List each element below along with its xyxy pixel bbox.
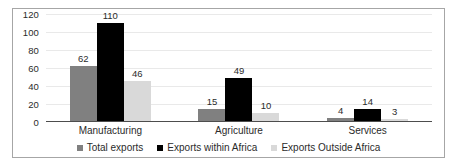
bar-value-label: 62: [78, 53, 89, 64]
bar-slot: 62: [70, 14, 97, 122]
y-axis-tick-label: 60: [28, 63, 39, 74]
category-axis: ManufacturingAgricultureServices: [46, 125, 432, 141]
bar-value-label: 3: [392, 106, 397, 117]
legend-label: Exports within Africa: [167, 142, 257, 153]
bar-group: 154910: [175, 14, 304, 122]
legend-swatch-icon: [157, 145, 163, 151]
chart-frame: 020406080100120 62110461549104143 Manufa…: [12, 8, 445, 158]
bar-value-label: 46: [132, 68, 143, 79]
legend-swatch-icon: [77, 145, 83, 151]
y-axis-tick-label: 80: [28, 45, 39, 56]
bar[interactable]: [70, 66, 97, 122]
bar-value-label: 4: [338, 105, 343, 116]
bar-value-label: 49: [234, 65, 245, 76]
bar-slot: 46: [124, 14, 151, 122]
chart-legend: Total exportsExports within AfricaExport…: [13, 142, 444, 153]
y-axis-tick-label: 40: [28, 81, 39, 92]
bar[interactable]: [225, 78, 252, 122]
legend-item[interactable]: Total exports: [77, 142, 144, 153]
bar-value-label: 15: [207, 96, 218, 107]
bar-value-label: 110: [103, 10, 118, 21]
y-axis-tick-label: 20: [28, 99, 39, 110]
legend-swatch-icon: [271, 145, 277, 151]
bar-slot: 15: [198, 14, 225, 122]
bar-slot: 49: [225, 14, 252, 122]
y-axis-tick-label: 100: [23, 27, 39, 38]
x-axis-line: [46, 121, 432, 123]
bars-layer: 62110461549104143: [46, 14, 432, 122]
category-axis-label: Manufacturing: [79, 125, 142, 136]
bar-group: 6211046: [46, 14, 175, 122]
bar[interactable]: [97, 23, 124, 122]
bar-value-label: 10: [261, 100, 272, 111]
legend-item[interactable]: Exports Outside Africa: [271, 142, 380, 153]
legend-label: Exports Outside Africa: [281, 142, 380, 153]
bar-slot: 3: [381, 14, 408, 122]
bar-group: 4143: [303, 14, 432, 122]
y-axis-tick-label: 120: [23, 9, 39, 20]
y-axis-tick-label: 0: [34, 117, 39, 128]
legend-item[interactable]: Exports within Africa: [157, 142, 257, 153]
category-axis-label: Agriculture: [215, 125, 263, 136]
bar-slot: 14: [354, 14, 381, 122]
bar-value-label: 14: [362, 96, 373, 107]
bar-slot: 4: [327, 14, 354, 122]
bar-slot: 110: [97, 14, 124, 122]
plot-area: 62110461549104143: [46, 14, 432, 122]
bar[interactable]: [124, 81, 151, 122]
bar-slot: 10: [252, 14, 279, 122]
y-axis: 020406080100120: [13, 14, 43, 122]
legend-label: Total exports: [87, 142, 144, 153]
category-axis-label: Services: [348, 125, 386, 136]
